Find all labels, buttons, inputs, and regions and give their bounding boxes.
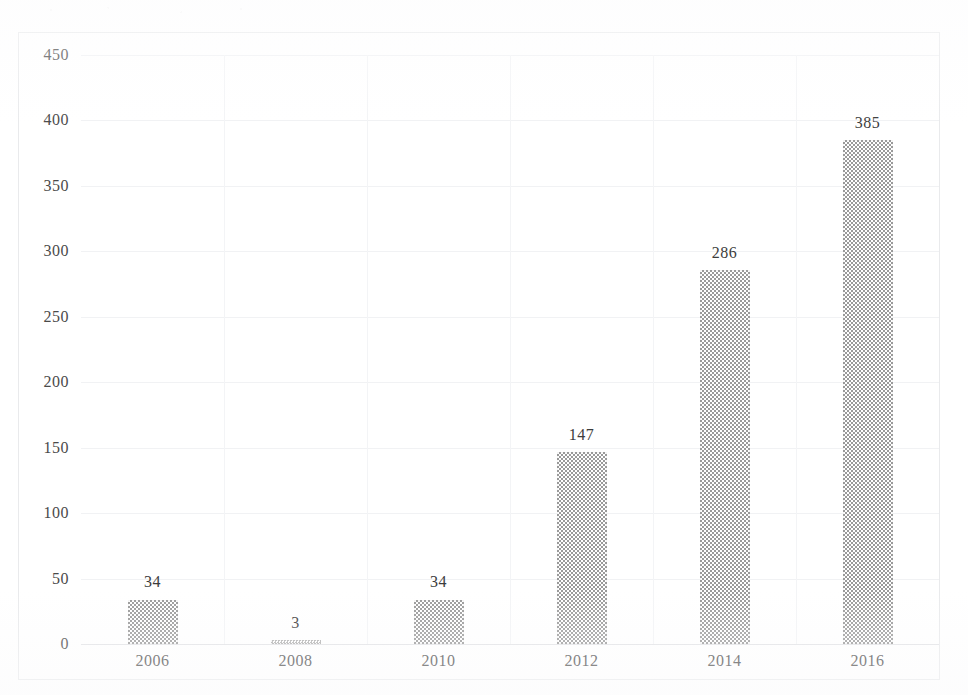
chart-frame: 050100150200250300350400450 343341472863… bbox=[18, 32, 940, 680]
bar-2016[interactable] bbox=[843, 140, 893, 644]
y-tick-label-350: 350 bbox=[44, 177, 70, 195]
y-tick-label-400: 400 bbox=[44, 111, 70, 129]
y-tick-label-200: 200 bbox=[44, 373, 70, 391]
bar-value-label-2016: 385 bbox=[855, 114, 881, 132]
x-tick-label-2010: 2010 bbox=[422, 652, 456, 670]
scanned-page: 050100150200250300350400450 343341472863… bbox=[0, 0, 968, 695]
y-tick-label-100: 100 bbox=[44, 504, 70, 522]
x-axis-tick-labels: 200620082010201220142016 bbox=[81, 652, 939, 686]
y-axis-tick-labels: 050100150200250300350400450 bbox=[19, 55, 69, 644]
gridline-x-5 bbox=[796, 55, 797, 644]
bar-value-label-2010: 34 bbox=[430, 573, 447, 591]
y-tick-label-450: 450 bbox=[44, 46, 70, 64]
plot-area: 34334147286385 bbox=[81, 55, 939, 644]
x-tick-label-2014: 2014 bbox=[708, 652, 742, 670]
bar-2008[interactable] bbox=[271, 640, 321, 644]
y-tick-label-150: 150 bbox=[44, 439, 70, 457]
bar-2012[interactable] bbox=[557, 452, 607, 644]
scan-artifact-speckle bbox=[20, 4, 280, 16]
gridline-x-3 bbox=[510, 55, 511, 644]
bar-2014[interactable] bbox=[700, 270, 750, 644]
bar-2010[interactable] bbox=[414, 600, 464, 645]
x-tick-label-2012: 2012 bbox=[565, 652, 599, 670]
x-tick-label-2008: 2008 bbox=[279, 652, 313, 670]
bar-2006[interactable] bbox=[128, 600, 178, 645]
bar-value-label-2012: 147 bbox=[569, 426, 595, 444]
y-tick-label-300: 300 bbox=[44, 242, 70, 260]
bar-value-label-2006: 34 bbox=[144, 573, 161, 591]
gridline-x-2 bbox=[367, 55, 368, 644]
y-tick-label-50: 50 bbox=[52, 570, 69, 588]
x-tick-label-2006: 2006 bbox=[136, 652, 170, 670]
gridline-y-0 bbox=[81, 644, 939, 645]
gridline-x-1 bbox=[224, 55, 225, 644]
bar-value-label-2014: 286 bbox=[712, 244, 738, 262]
bar-value-label-2008: 3 bbox=[291, 614, 300, 632]
x-tick-label-2016: 2016 bbox=[851, 652, 885, 670]
y-tick-label-0: 0 bbox=[61, 635, 70, 653]
gridline-x-4 bbox=[653, 55, 654, 644]
y-tick-label-250: 250 bbox=[44, 308, 70, 326]
